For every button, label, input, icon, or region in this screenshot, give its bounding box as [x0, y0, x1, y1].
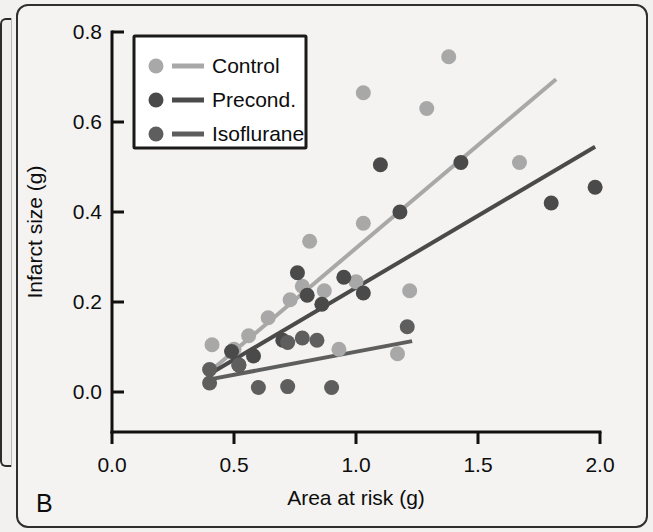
- x-axis-title: Area at risk (g): [287, 486, 425, 509]
- data-point-precond: [314, 297, 329, 312]
- legend-label-0: Control: [212, 54, 280, 77]
- data-point-control: [402, 283, 417, 298]
- data-point-control: [302, 234, 317, 249]
- data-point-control: [419, 101, 434, 116]
- data-point-control: [283, 292, 298, 307]
- data-point-isoflurane: [202, 376, 217, 391]
- x-axis-tick-labels: 0.00.51.01.52.0: [97, 453, 614, 476]
- legend: ControlPrecond.Isoflurane: [134, 36, 306, 148]
- figure-panel: 0.00.20.40.60.8 0.00.51.01.52.0 Area at …: [0, 0, 653, 532]
- data-point-precond: [544, 196, 559, 211]
- legend-label-2: Isoflurane: [212, 122, 304, 145]
- data-point-precond: [453, 155, 468, 170]
- data-point-isoflurane: [309, 333, 324, 348]
- regression-line-precond: [210, 147, 596, 374]
- x-tick-label: 1.5: [463, 453, 492, 476]
- y-tick-label: 0.4: [73, 200, 103, 223]
- data-point-precond: [246, 349, 261, 364]
- data-point-precond: [336, 270, 351, 285]
- y-axis-tick-labels: 0.00.20.40.60.8: [73, 20, 103, 403]
- y-axis-title: Infarct size (g): [23, 165, 46, 298]
- data-point-isoflurane: [400, 319, 415, 334]
- data-point-isoflurane: [280, 379, 295, 394]
- y-tick-label: 0.6: [73, 110, 102, 133]
- y-tick-label: 0.2: [73, 290, 102, 313]
- legend-marker-1: [149, 93, 164, 108]
- x-axis-ticks: [112, 432, 600, 444]
- data-point-precond: [588, 180, 603, 195]
- data-point-precond: [224, 344, 239, 359]
- legend-marker-2: [149, 127, 164, 142]
- data-point-precond: [373, 157, 388, 172]
- data-point-isoflurane: [280, 335, 295, 350]
- data-point-precond: [290, 265, 305, 280]
- plot-svg: 0.00.20.40.60.8 0.00.51.01.52.0 Area at …: [0, 0, 653, 532]
- data-point-control: [241, 328, 256, 343]
- y-tick-label: 0.8: [73, 20, 102, 43]
- data-point-isoflurane: [251, 380, 266, 395]
- data-point-isoflurane: [295, 331, 310, 346]
- data-point-control: [331, 342, 346, 357]
- scatter-plot: 0.00.20.40.60.8 0.00.51.01.52.0 Area at …: [0, 0, 653, 532]
- data-point-isoflurane: [324, 380, 339, 395]
- x-tick-label: 1.0: [341, 453, 370, 476]
- legend-label-1: Precond.: [212, 88, 296, 111]
- panel-label: B: [36, 489, 53, 517]
- data-point-control: [441, 49, 456, 64]
- data-point-control: [390, 346, 405, 361]
- legend-marker-0: [149, 59, 164, 74]
- data-point-precond: [356, 286, 371, 301]
- data-point-control: [356, 216, 371, 231]
- data-point-isoflurane: [202, 362, 217, 377]
- data-point-control: [205, 337, 220, 352]
- y-tick-label: 0.0: [73, 380, 102, 403]
- x-tick-label: 2.0: [585, 453, 614, 476]
- y-axis-ticks: [112, 32, 124, 392]
- data-point-control: [317, 283, 332, 298]
- data-point-control: [512, 155, 527, 170]
- x-tick-label: 0.5: [219, 453, 248, 476]
- data-point-precond: [392, 205, 407, 220]
- data-point-isoflurane: [231, 358, 246, 373]
- data-point-control: [261, 310, 276, 325]
- data-point-control: [356, 85, 371, 100]
- x-tick-label: 0.0: [97, 453, 126, 476]
- data-point-precond: [300, 288, 315, 303]
